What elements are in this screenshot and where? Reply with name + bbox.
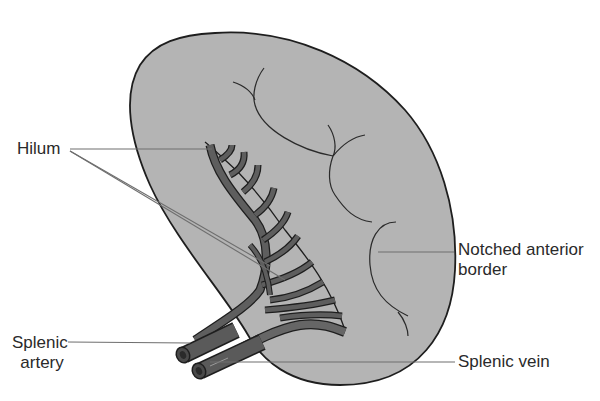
label-hilum: Hilum (17, 139, 60, 159)
splenic-vein-text: Splenic vein (458, 352, 550, 372)
splenic-artery-text-line1: Splenic (12, 333, 68, 353)
spleen-outline (130, 32, 455, 385)
hilum-text: Hilum (17, 139, 60, 159)
notched-border-text-line1: Notched anterior (458, 240, 584, 260)
splenic-artery-text-line2: artery (12, 353, 68, 373)
label-splenic-artery: Splenic artery (12, 333, 68, 373)
spleen-diagram (0, 0, 600, 401)
notched-border-text-line2: border (458, 260, 584, 280)
label-notched-anterior-border: Notched anterior border (458, 240, 584, 280)
label-splenic-vein: Splenic vein (458, 352, 550, 372)
